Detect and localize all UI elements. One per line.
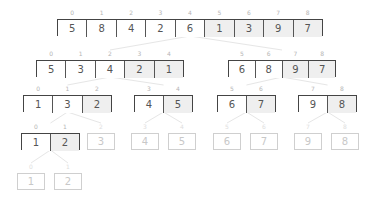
cell-index: 6 [247, 85, 275, 92]
cell-index: 8 [294, 9, 322, 16]
cell-value: 2 [62, 137, 68, 148]
array-cell: 05 [37, 61, 66, 78]
cell-value: 8 [339, 99, 345, 110]
array-level-4-0: 01 [17, 173, 45, 190]
cell-index: 5 [205, 9, 233, 16]
cell-value: 2 [157, 23, 163, 34]
cell-value: 9 [275, 23, 281, 34]
cell-index: 2 [88, 123, 114, 130]
array-cell: 67 [250, 133, 278, 150]
cell-value: 5 [175, 99, 181, 110]
cell-value: 5 [69, 23, 75, 34]
array-level-3-6: 79 [294, 133, 322, 150]
cell-index: 6 [256, 50, 282, 57]
array-level-3-1: 23 [87, 133, 115, 150]
array-cell: 79 [283, 61, 310, 78]
array-cell: 13 [53, 96, 82, 113]
array-cell: 01 [22, 134, 51, 151]
array-cell: 63 [235, 20, 264, 37]
array-cell: 12 [54, 173, 82, 190]
cell-index: 4 [169, 123, 195, 130]
array-cell: 32 [146, 20, 175, 37]
cell-index: 2 [117, 9, 145, 16]
array-cell: 68 [256, 61, 283, 78]
cell-index: 1 [55, 163, 81, 170]
cell-value: 6 [229, 99, 235, 110]
cell-index: 3 [146, 9, 174, 16]
array-cell: 05 [58, 20, 87, 37]
cell-index: 0 [24, 85, 52, 92]
array-cell: 22 [83, 96, 111, 113]
array-cell: 45 [168, 133, 196, 150]
array-cell: 18 [87, 20, 116, 37]
cell-index: 5 [229, 50, 255, 57]
cell-value: 7 [319, 64, 325, 75]
array-cell: 01 [17, 173, 45, 190]
cell-value: 1 [216, 23, 222, 34]
cell-index: 4 [176, 9, 204, 16]
array-cell: 13 [66, 61, 95, 78]
cell-index: 0 [58, 9, 86, 16]
cell-index: 7 [299, 85, 327, 92]
cell-value: 1 [28, 176, 34, 187]
array-level-3-5: 67 [250, 133, 278, 150]
cell-value: 4 [142, 136, 148, 147]
cell-value: 7 [258, 99, 264, 110]
cell-value: 4 [128, 23, 134, 34]
array-level-4-1: 12 [54, 173, 82, 190]
array-cell: 41 [155, 61, 183, 78]
cell-index: 5 [214, 123, 240, 130]
cell-value: 9 [292, 64, 298, 75]
array-cell: 51 [205, 20, 234, 37]
cell-value: 4 [107, 64, 113, 75]
array-cell: 88 [328, 96, 356, 113]
cell-value: 7 [305, 23, 311, 34]
cell-value: 9 [305, 136, 311, 147]
cell-index: 6 [251, 123, 277, 130]
array-cell: 56 [213, 133, 241, 150]
array-level-0-0: 051824324651637987 [57, 19, 323, 36]
array-cell: 79 [299, 96, 328, 113]
cell-index: 6 [235, 9, 263, 16]
cell-index: 3 [125, 50, 153, 57]
array-level-3-4: 56 [213, 133, 241, 150]
cell-index: 7 [295, 123, 321, 130]
array-level-2-3: 7988 [298, 95, 357, 112]
cell-index: 0 [22, 123, 50, 130]
array-cell: 79 [264, 20, 293, 37]
cell-value: 8 [265, 64, 271, 75]
cell-value: 4 [146, 99, 152, 110]
cell-value: 9 [310, 99, 316, 110]
cell-value: 3 [246, 23, 252, 34]
array-cell: 87 [309, 61, 335, 78]
array-cell: 34 [131, 133, 159, 150]
array-cell: 67 [247, 96, 275, 113]
cell-value: 5 [179, 136, 185, 147]
array-level-1-0: 0513243241 [36, 60, 184, 77]
cell-value: 5 [48, 64, 54, 75]
array-cell: 45 [164, 96, 192, 113]
cell-index: 1 [87, 9, 115, 16]
cell-index: 7 [264, 9, 292, 16]
cell-index: 8 [309, 50, 335, 57]
cell-value: 1 [33, 137, 39, 148]
cell-index: 3 [135, 85, 163, 92]
array-cell: 79 [294, 133, 322, 150]
array-level-2-2: 5667 [217, 95, 276, 112]
cell-index: 0 [18, 163, 44, 170]
cell-value: 3 [77, 64, 83, 75]
array-cell: 34 [135, 96, 164, 113]
array-level-1-1: 56687987 [228, 60, 336, 77]
cell-value: 3 [64, 99, 70, 110]
array-cell: 24 [117, 20, 146, 37]
array-level-3-7: 88 [331, 133, 359, 150]
cell-index: 4 [164, 85, 192, 92]
array-level-3-3: 45 [168, 133, 196, 150]
array-cell: 87 [294, 20, 322, 37]
cell-index: 1 [53, 85, 81, 92]
cell-value: 8 [342, 136, 348, 147]
cell-index: 2 [83, 85, 111, 92]
cell-index: 2 [96, 50, 124, 57]
array-level-3-0: 0112 [21, 133, 80, 150]
cell-value: 8 [98, 23, 104, 34]
